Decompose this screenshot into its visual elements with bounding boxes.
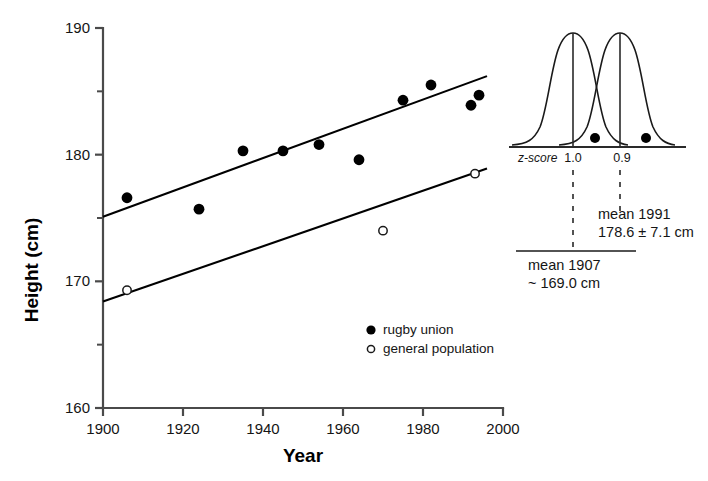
x-tick-label: 1960 — [326, 420, 359, 437]
y-axis-tick-labels: 160170180190 — [65, 19, 90, 416]
inset-zscore-label: z-score — [517, 151, 558, 165]
inset-curve-1991 — [559, 33, 675, 145]
data-point-general-population — [379, 226, 387, 234]
chart-legend: rugby uniongeneral population — [366, 322, 494, 356]
x-tick-label: 1940 — [246, 420, 279, 437]
data-point-rugby-union — [398, 95, 409, 106]
data-points-group — [122, 80, 485, 295]
annotation-mean-1907-line1: mean 1907 — [528, 257, 601, 273]
x-axis-major-ticks — [103, 408, 503, 416]
inset-ztick-label-1: 0.9 — [613, 151, 630, 165]
y-tick-label: 170 — [65, 272, 90, 289]
data-point-rugby-union — [466, 100, 477, 111]
legend-label-rugby-union: rugby union — [383, 322, 454, 337]
inset-dot-z-2 — [641, 133, 651, 143]
y-tick-label: 190 — [65, 19, 90, 36]
inset-dot-z-1 — [590, 133, 600, 143]
y-axis: 160170180190 — [65, 19, 103, 416]
legend-label-general-population: general population — [383, 341, 494, 356]
x-axis-title: Year — [283, 445, 324, 466]
x-tick-label: 1980 — [406, 420, 439, 437]
x-axis: 190019201940196019802000 — [86, 408, 519, 437]
inset-ztick-label-0: 1.0 — [564, 151, 581, 165]
data-point-general-population — [471, 169, 479, 177]
data-point-rugby-union — [238, 145, 249, 156]
x-tick-label: 2000 — [486, 420, 519, 437]
data-point-rugby-union — [278, 145, 289, 156]
data-point-rugby-union — [194, 204, 205, 215]
data-point-rugby-union — [354, 154, 365, 165]
data-point-general-population — [123, 286, 131, 294]
data-point-rugby-union — [426, 80, 437, 91]
inset-curve-1907 — [512, 33, 628, 145]
x-axis-tick-labels: 190019201940196019802000 — [86, 420, 519, 437]
trend-line — [103, 76, 487, 217]
annotation-mean-1907-line2: ~ 169.0 cm — [528, 275, 600, 291]
figure-root: 160170180190 190019201940196019802000 He… — [0, 0, 708, 481]
legend-marker-general-population — [367, 345, 374, 352]
legend-marker-rugby-union — [366, 325, 375, 334]
annotation-mean-1991-line2: 178.6 ± 7.1 cm — [598, 224, 694, 240]
trend-lines-group — [103, 76, 487, 301]
annotation-mean-1991-line1: mean 1991 — [598, 206, 671, 222]
y-tick-label: 180 — [65, 146, 90, 163]
data-point-rugby-union — [122, 192, 133, 203]
y-tick-label: 160 — [65, 399, 90, 416]
y-axis-title: Height (cm) — [21, 218, 42, 323]
x-tick-label: 1920 — [166, 420, 199, 437]
chart-canvas: 160170180190 190019201940196019802000 He… — [0, 0, 708, 481]
trend-line — [103, 169, 487, 302]
data-point-rugby-union — [474, 90, 485, 101]
x-tick-label: 1900 — [86, 420, 119, 437]
inset-distribution-panel: z-score 1.0 0.9 mean 1991 178.6 ± 7.1 cm… — [509, 33, 694, 291]
data-point-rugby-union — [314, 139, 325, 150]
